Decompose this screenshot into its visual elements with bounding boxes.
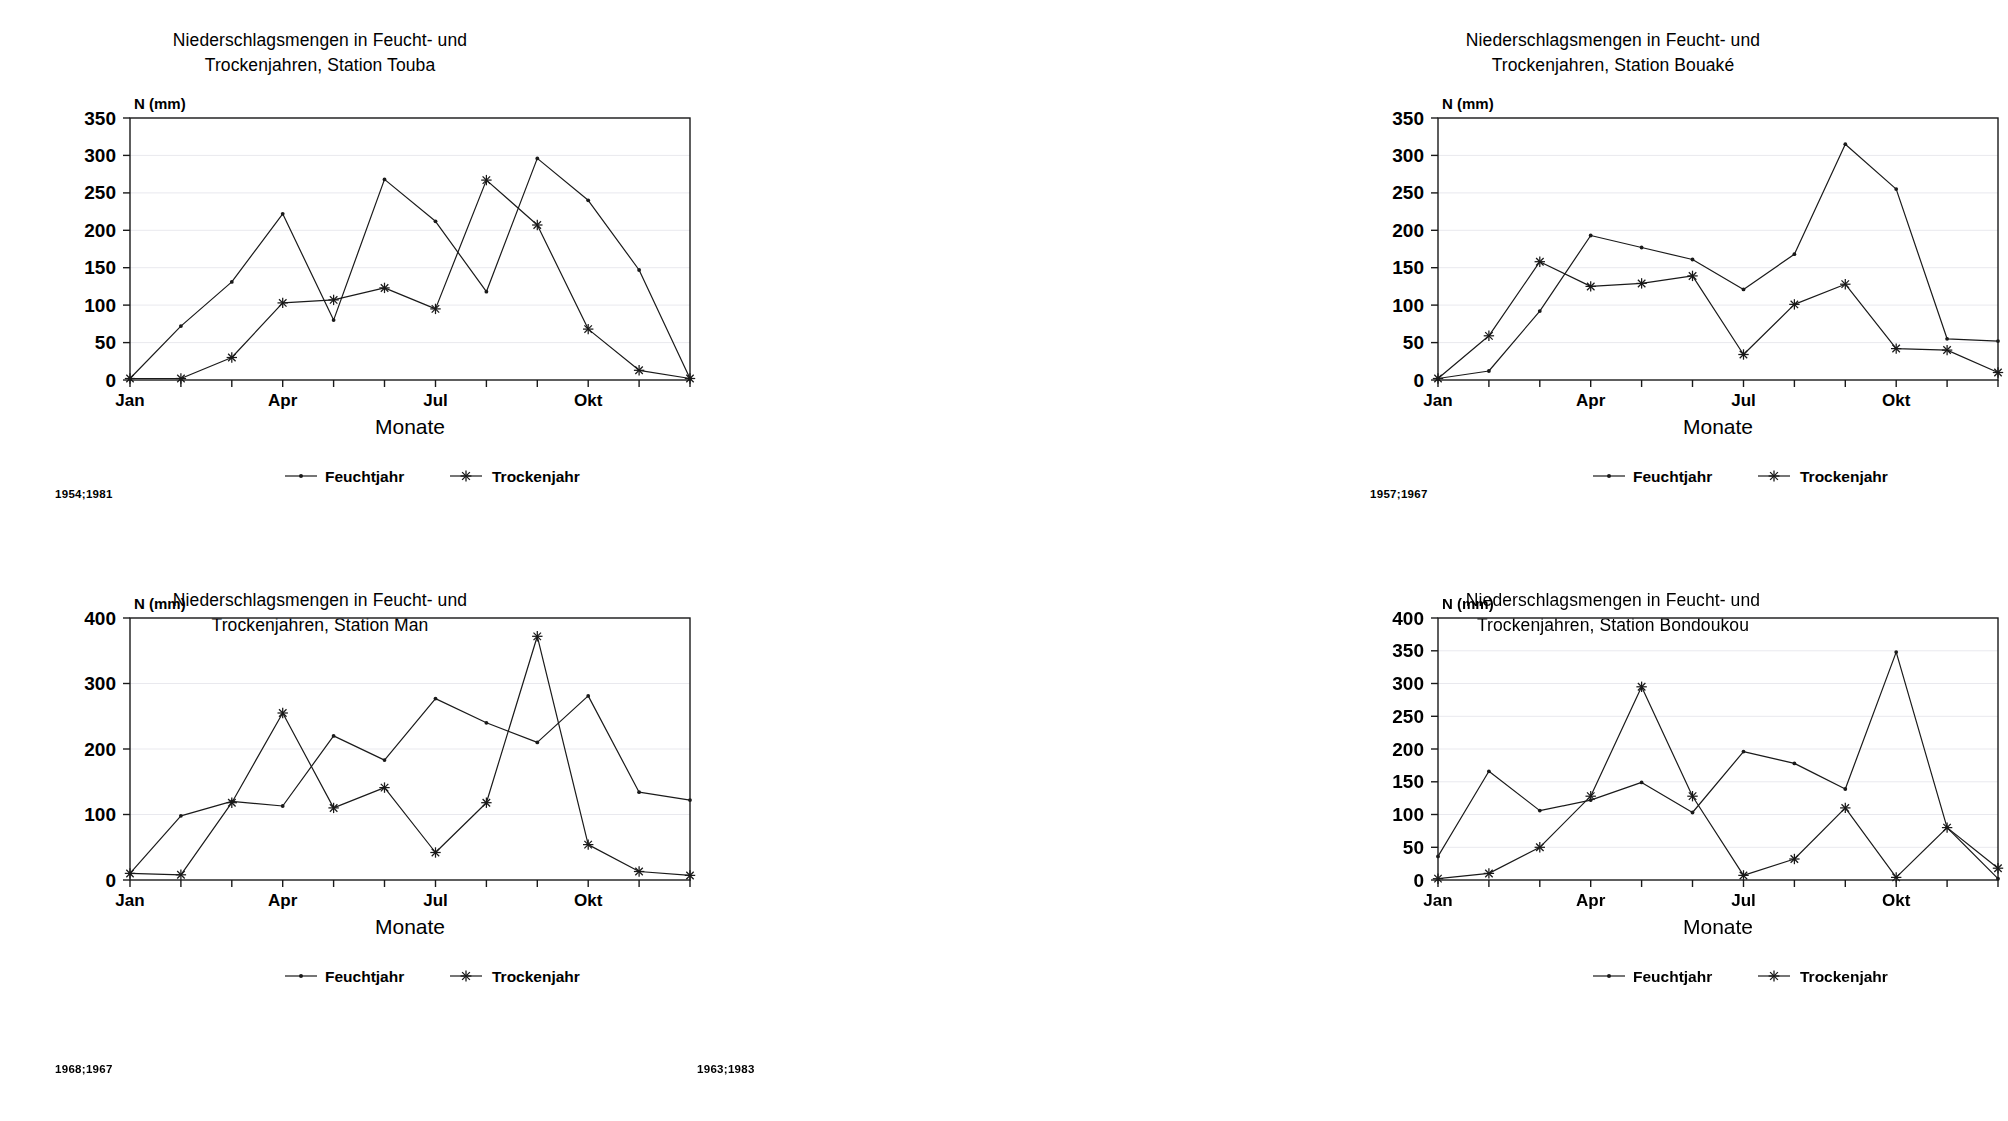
y-tick-label: 300 bbox=[84, 145, 116, 166]
dot-marker bbox=[1996, 877, 2000, 881]
series-line-feuchtjahr bbox=[130, 696, 690, 874]
dot-marker bbox=[586, 694, 590, 698]
star-marker bbox=[1942, 822, 1952, 832]
star-marker bbox=[1769, 471, 1780, 482]
star-marker bbox=[1789, 299, 1799, 309]
x-tick-label: Jan bbox=[115, 391, 144, 410]
x-axis-title: Monate bbox=[1683, 415, 1753, 438]
dot-marker bbox=[1691, 811, 1695, 815]
star-marker bbox=[634, 866, 644, 876]
chart-panel-bondoukou: Niederschlagsmengen in Feucht- und Trock… bbox=[673, 560, 1347, 1121]
star-marker bbox=[461, 971, 472, 982]
x-tick-label: Apr bbox=[1576, 391, 1606, 410]
y-axis-label: N (mm) bbox=[134, 95, 186, 112]
x-axis-title: Monate bbox=[1683, 915, 1753, 938]
plot-area-bouake: 050100150200250300350JanAprJulOktN (mm)M… bbox=[1308, 88, 2008, 508]
star-marker bbox=[1687, 791, 1697, 801]
chart-footnote-bouake: 1957;1967 bbox=[1370, 488, 1428, 500]
star-marker bbox=[1891, 872, 1901, 882]
y-tick-label: 250 bbox=[1392, 706, 1424, 727]
plot-area-bondoukou: 050100150200250300350400JanAprJulOktN (m… bbox=[1308, 588, 2008, 1008]
legend-entry-feuchtjahr: Feuchtjahr bbox=[285, 468, 404, 485]
star-marker bbox=[379, 283, 389, 293]
star-marker bbox=[227, 798, 237, 808]
y-tick-label: 200 bbox=[84, 220, 116, 241]
star-marker bbox=[1738, 870, 1748, 880]
x-tick-label: Jul bbox=[423, 391, 448, 410]
chart-footnote-bondoukou: 1963;1983 bbox=[697, 1063, 755, 1075]
y-tick-label: 400 bbox=[1392, 608, 1424, 629]
y-tick-label: 300 bbox=[1392, 145, 1424, 166]
dot-marker bbox=[179, 324, 183, 328]
star-marker bbox=[1942, 345, 1952, 355]
dot-marker bbox=[1640, 781, 1644, 785]
series-line-feuchtjahr bbox=[130, 158, 690, 378]
chart-svg: 050100150200250300350400JanAprJulOktN (m… bbox=[1308, 588, 2008, 1008]
dot-marker bbox=[1607, 474, 1611, 478]
dot-marker bbox=[1436, 855, 1440, 859]
y-tick-label: 200 bbox=[84, 739, 116, 760]
dot-marker bbox=[535, 157, 539, 161]
legend-label: Trockenjahr bbox=[1800, 468, 1888, 485]
plot-area-man: 0100200300400JanAprJulOktN (mm)MonateFeu… bbox=[0, 588, 700, 1008]
star-marker bbox=[1891, 343, 1901, 353]
x-tick-label: Apr bbox=[268, 891, 298, 910]
legend-entry-trockenjahr: Trockenjahr bbox=[450, 468, 580, 485]
legend-entry-feuchtjahr: Feuchtjahr bbox=[1593, 968, 1712, 985]
star-marker bbox=[328, 803, 338, 813]
dot-marker bbox=[1487, 369, 1491, 373]
series-line-trockenjahr bbox=[130, 636, 690, 875]
y-tick-label: 350 bbox=[1392, 640, 1424, 661]
dot-marker bbox=[1691, 258, 1695, 262]
dot-marker bbox=[485, 721, 489, 725]
star-marker bbox=[125, 373, 135, 383]
dot-marker bbox=[586, 198, 590, 202]
star-marker bbox=[1840, 279, 1850, 289]
y-tick-label: 50 bbox=[1403, 837, 1424, 858]
dot-marker bbox=[1742, 750, 1746, 754]
y-axis-label: N (mm) bbox=[1442, 95, 1494, 112]
star-marker bbox=[1586, 791, 1596, 801]
dot-marker bbox=[1793, 252, 1797, 256]
star-marker bbox=[1993, 863, 2003, 873]
dot-marker bbox=[179, 814, 183, 818]
star-marker bbox=[1840, 803, 1850, 813]
dot-marker bbox=[1843, 787, 1847, 791]
legend-label: Feuchtjahr bbox=[1633, 468, 1712, 485]
dot-marker bbox=[1894, 650, 1898, 654]
star-marker bbox=[278, 298, 288, 308]
y-tick-label: 200 bbox=[1392, 220, 1424, 241]
plot-frame bbox=[1438, 118, 1998, 380]
series-line-feuchtjahr bbox=[1438, 652, 1998, 879]
y-tick-label: 100 bbox=[1392, 295, 1424, 316]
dot-marker bbox=[637, 268, 641, 272]
star-marker bbox=[1484, 331, 1494, 341]
dot-marker bbox=[230, 280, 234, 284]
chart-svg: 050100150200250300350JanAprJulOktN (mm)M… bbox=[1308, 88, 2008, 508]
star-marker bbox=[1433, 874, 1443, 884]
y-tick-label: 350 bbox=[1392, 108, 1424, 129]
legend-label: Trockenjahr bbox=[492, 468, 580, 485]
y-tick-label: 0 bbox=[105, 370, 116, 391]
star-marker bbox=[1636, 682, 1646, 692]
star-marker bbox=[1636, 278, 1646, 288]
legend-entry-trockenjahr: Trockenjahr bbox=[1758, 468, 1888, 485]
y-tick-label: 50 bbox=[1403, 332, 1424, 353]
series-line-trockenjahr bbox=[1438, 262, 1998, 379]
dot-marker bbox=[332, 734, 336, 738]
y-tick-label: 100 bbox=[84, 295, 116, 316]
legend-entry-trockenjahr: Trockenjahr bbox=[450, 968, 580, 985]
y-tick-label: 0 bbox=[1413, 370, 1424, 391]
legend-entry-trockenjahr: Trockenjahr bbox=[1758, 968, 1888, 985]
x-tick-label: Jul bbox=[1731, 391, 1756, 410]
y-tick-label: 0 bbox=[1413, 870, 1424, 891]
dot-marker bbox=[1945, 337, 1949, 341]
dot-marker bbox=[1894, 187, 1898, 191]
chart-panel-bouake: Niederschlagsmengen in Feucht- und Trock… bbox=[673, 0, 1347, 560]
chart-svg: 050100150200250300350JanAprJulOktN (mm)M… bbox=[0, 88, 700, 508]
y-tick-label: 350 bbox=[84, 108, 116, 129]
star-marker bbox=[1535, 257, 1545, 267]
plot-area-touba: 050100150200250300350JanAprJulOktN (mm)M… bbox=[0, 88, 700, 508]
star-marker bbox=[461, 471, 472, 482]
